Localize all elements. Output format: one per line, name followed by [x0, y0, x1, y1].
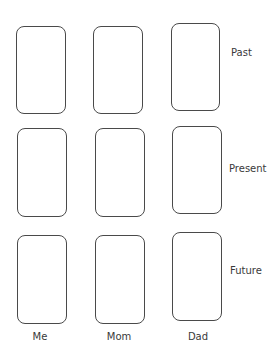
- card-mom-future: [95, 235, 145, 324]
- card-dad-future: [172, 232, 222, 321]
- card-dad-past: [171, 23, 220, 111]
- card-me-future: [17, 235, 67, 324]
- row-label-past: Past: [231, 47, 252, 59]
- card-mom-past: [93, 26, 143, 114]
- column-label-me: Me: [15, 331, 65, 343]
- row-label-present: Present: [229, 163, 267, 175]
- column-label-dad: Dad: [173, 331, 223, 343]
- card-dad-present: [172, 126, 222, 214]
- column-label-mom: Mom: [94, 331, 144, 343]
- card-me-present: [17, 128, 67, 217]
- row-label-future: Future: [230, 265, 262, 277]
- card-me-past: [16, 26, 66, 114]
- card-mom-present: [95, 128, 145, 217]
